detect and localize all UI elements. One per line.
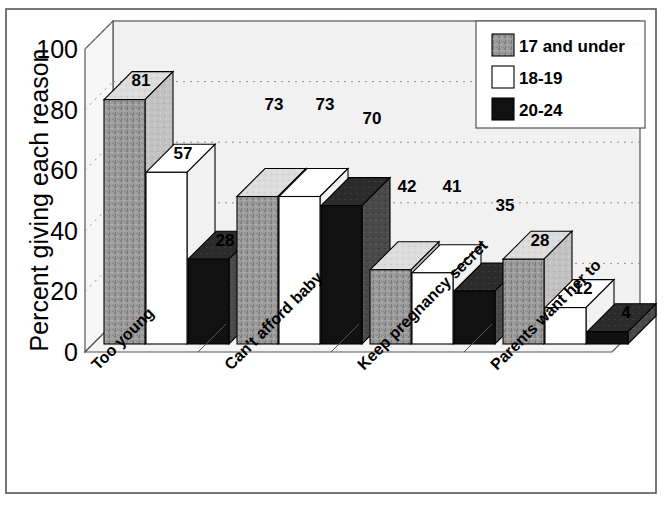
legend: 17 and under 18-19 20-24	[476, 21, 645, 128]
white-swatch-icon	[492, 66, 514, 88]
value-label-too-young-20-24: 28	[216, 231, 235, 250]
legend-item-20-24[interactable]: 20-24	[492, 98, 563, 120]
value-label-keep-pregnancy-secret-18-19: 41	[443, 177, 462, 196]
y-axis-title: Percent giving each reason	[25, 49, 53, 352]
y-tick-20: 20	[50, 277, 78, 305]
y-tick-40: 40	[50, 217, 78, 245]
value-label-too-young-17-and-under: 81	[132, 71, 151, 90]
black-swatch-icon	[492, 98, 514, 120]
y-tick-80: 80	[50, 96, 78, 124]
legend-item-17-and-under[interactable]: 17 and under	[492, 34, 625, 56]
value-label-keep-pregnancy-secret-17-and-under: 42	[398, 177, 417, 196]
legend-label-17-and-under: 17 and under	[519, 37, 625, 56]
value-label-cant-afford-baby-20-24: 70	[363, 109, 382, 128]
y-tick-60: 60	[50, 156, 78, 184]
value-label-parents-want-her-to-20-24: 4	[621, 303, 631, 322]
bar-chart-3d: Percent giving each reason 0 20 40 60 80…	[0, 0, 666, 505]
value-label-parents-want-her-to-17-and-under: 28	[531, 231, 550, 250]
y-tick-100: 100	[36, 35, 78, 63]
y-tick-0: 0	[64, 338, 78, 366]
gray-textured-swatch-icon	[492, 34, 514, 56]
value-label-too-young-18-19: 57	[174, 144, 193, 163]
legend-label-20-24: 20-24	[519, 101, 563, 120]
figure-container: Percent giving each reason 0 20 40 60 80…	[0, 0, 666, 505]
legend-label-18-19: 18-19	[519, 69, 562, 88]
value-label-cant-afford-baby-17-and-under: 73	[265, 95, 284, 114]
value-label-keep-pregnancy-secret-20-24: 35	[496, 196, 515, 215]
value-label-cant-afford-baby-18-19: 73	[316, 95, 335, 114]
legend-item-18-19[interactable]: 18-19	[492, 66, 562, 88]
